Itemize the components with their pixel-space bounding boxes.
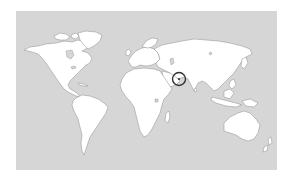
australia — [224, 111, 260, 141]
new-guinea — [242, 99, 258, 107]
indonesia — [211, 97, 242, 107]
lake-victoria — [155, 99, 158, 102]
new-zealand — [268, 137, 272, 145]
philippines — [229, 79, 236, 89]
british-isles — [126, 49, 131, 56]
arctic-islands — [54, 33, 70, 40]
borneo — [224, 89, 234, 99]
africa — [120, 68, 172, 137]
north-america — [24, 40, 92, 97]
caribbean-islands — [78, 83, 88, 86]
scandinavia — [142, 38, 158, 48]
madagascar — [165, 111, 170, 123]
location-marker-dot — [178, 78, 180, 80]
new-zealand-south — [263, 145, 268, 152]
world-map-svg — [16, 11, 277, 170]
world-map — [16, 11, 277, 170]
sri-lanka — [194, 88, 197, 92]
arctic-islands-east — [71, 33, 79, 39]
south-america — [72, 95, 108, 155]
japan — [241, 57, 248, 69]
